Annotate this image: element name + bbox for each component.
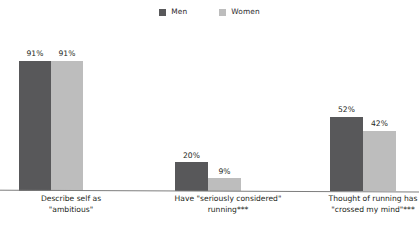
bar-rect [51, 61, 83, 191]
bar-rect [363, 131, 396, 191]
category-axis-label: Thought of running has"crossed my mind"*… [278, 194, 419, 215]
bar-men-1: 20% [175, 151, 208, 191]
bar-rect [330, 117, 363, 191]
bar-chart-plot-area: 91%91%Describe self as"ambitious" 20%9%H… [0, 0, 419, 228]
bar-women-1: 9% [208, 167, 241, 191]
bar-pair: 52%42% [330, 105, 396, 191]
bar-men-0: 91% [19, 49, 51, 191]
bar-rect [19, 61, 51, 191]
bar-value-label: 20% [183, 151, 200, 160]
category-axis-label-line: Thought of running has [278, 194, 419, 205]
bar-pair: 91%91% [19, 49, 83, 191]
bar-value-label: 91% [58, 49, 75, 58]
category-axis-baseline [0, 189, 419, 193]
category-axis-label: Describe self as"ambitious" [0, 194, 153, 215]
category-axis-label-line: "ambitious" [0, 205, 153, 216]
bar-value-label: 52% [338, 105, 355, 114]
bar-women-0: 91% [51, 49, 83, 191]
bar-value-label: 91% [26, 49, 43, 58]
category-axis-label-line: Describe self as [0, 194, 153, 205]
bar-value-label: 9% [218, 167, 230, 176]
bar-pair: 20%9% [175, 151, 241, 191]
category-axis-label-line: "crossed my mind"*** [278, 205, 419, 216]
bar-value-label: 42% [371, 119, 388, 128]
bar-rect [175, 162, 208, 191]
bar-men-2: 52% [330, 105, 363, 191]
bar-women-2: 42% [363, 119, 396, 191]
